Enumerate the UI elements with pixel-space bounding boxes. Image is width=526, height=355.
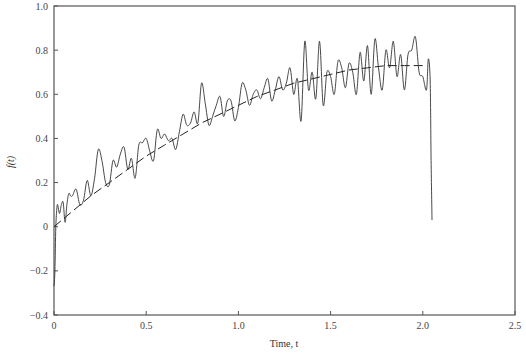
y-tick-label: 1.0 bbox=[36, 1, 49, 12]
x-tick-label: 2.5 bbox=[509, 320, 522, 331]
x-axis-title: Time, t bbox=[270, 338, 299, 349]
y-tick-label: 0.6 bbox=[36, 89, 49, 100]
trend-line-series bbox=[54, 66, 423, 227]
x-tick-label: 1.5 bbox=[324, 320, 337, 331]
series-layer bbox=[54, 36, 432, 286]
y-tick-label: 0 bbox=[43, 221, 48, 232]
signal-line-series bbox=[54, 36, 432, 286]
y-tick-label: −0.2 bbox=[30, 265, 48, 276]
x-tick-label: 1.0 bbox=[232, 320, 245, 331]
y-tick-label: 0.8 bbox=[36, 45, 49, 56]
line-chart: −0.4−0.200.20.40.60.81.0 00.51.01.52.02.… bbox=[0, 0, 526, 355]
x-tick-label: 0 bbox=[52, 320, 57, 331]
x-tick-label: 2.0 bbox=[417, 320, 430, 331]
plot-frame bbox=[54, 6, 515, 315]
y-tick-label: 0.2 bbox=[36, 177, 49, 188]
x-tick-label: 0.5 bbox=[140, 320, 153, 331]
y-tick-label: −0.4 bbox=[30, 310, 48, 321]
y-tick-label: 0.4 bbox=[36, 133, 49, 144]
y-axis-title: f(t) bbox=[5, 155, 17, 168]
x-axis-ticks: 00.51.01.52.02.5 bbox=[52, 311, 522, 331]
